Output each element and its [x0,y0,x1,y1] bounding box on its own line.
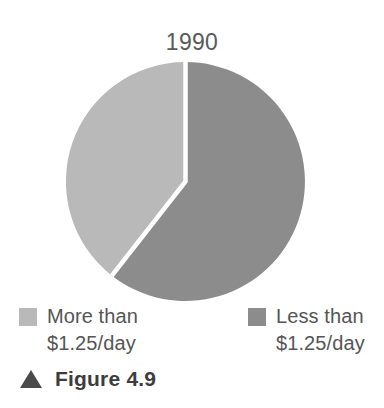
pie-chart-svg [66,62,305,301]
figure-caption: Figure 4.9 [20,367,156,391]
chart-legend: More than $1.25/day Less than $1.25/day [0,303,384,359]
legend-label-less-than: Less than $1.25/day [276,303,365,357]
legend-label-more-than: More than $1.25/day [47,303,138,357]
figure-caption-text: Figure 4.9 [55,367,156,391]
triangle-up-icon [20,370,42,388]
figure-4-9: 1990 More than $1.25/day Less than $1.25… [0,0,384,408]
legend-item-more-than[interactable]: More than $1.25/day [19,303,138,357]
legend-swatch-less-than [248,308,266,326]
pie-chart [66,62,305,301]
legend-item-less-than[interactable]: Less than $1.25/day [248,303,365,357]
chart-title: 1990 [0,28,384,56]
legend-swatch-more-than [19,308,37,326]
